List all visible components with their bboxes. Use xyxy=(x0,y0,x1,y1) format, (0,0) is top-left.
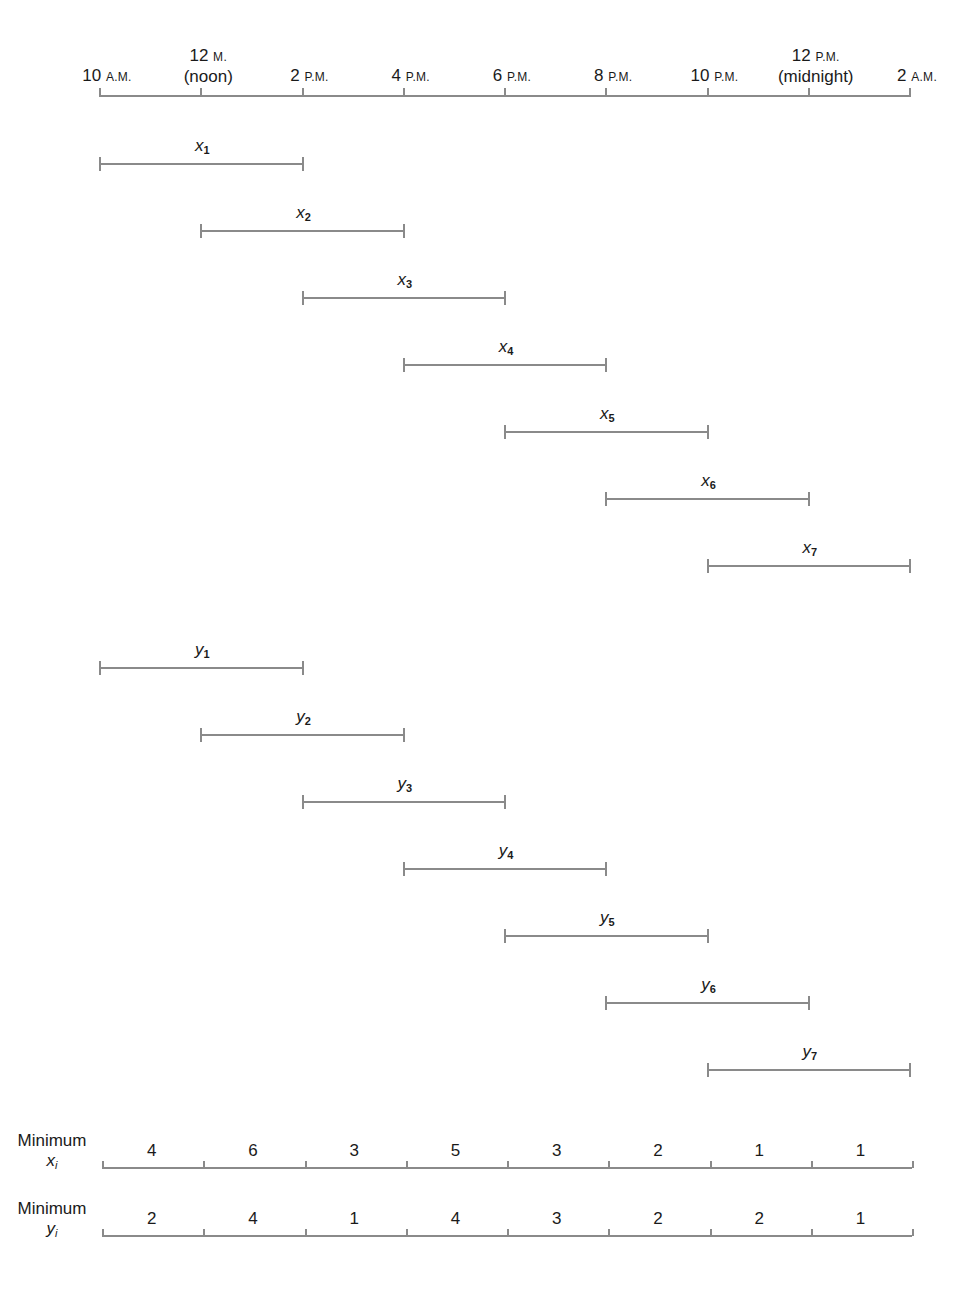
row-tick xyxy=(406,1161,408,1168)
interval-label: y7 xyxy=(802,1042,817,1062)
row-tick xyxy=(912,1229,914,1236)
axis-tick-label: 6 P.M. xyxy=(493,66,532,87)
interval-sub: 4 xyxy=(507,345,513,357)
interval-sub: 6 xyxy=(710,479,716,491)
interval-label: x1 xyxy=(195,136,210,156)
axis-tick xyxy=(504,88,506,96)
interval-endcap xyxy=(302,157,304,171)
minimum-value: 1 xyxy=(349,1209,358,1229)
interval-var: y xyxy=(499,841,508,860)
row-tick xyxy=(102,1161,104,1168)
interval-endcap xyxy=(302,661,304,675)
interval-endcap xyxy=(504,291,506,305)
row-label: Minimumyi xyxy=(4,1199,100,1243)
tick-unit: P.M. xyxy=(507,70,531,84)
interval-sub: 2 xyxy=(305,211,311,223)
interval-line xyxy=(99,163,304,165)
interval-endcap xyxy=(909,559,911,573)
interval-endcap xyxy=(605,862,607,876)
interval-var: y xyxy=(195,640,204,659)
axis-tick xyxy=(605,88,607,96)
interval-line xyxy=(707,1069,912,1071)
interval-var: x xyxy=(296,203,305,222)
interval-endcap xyxy=(403,224,405,238)
axis-tick xyxy=(909,88,911,96)
row-tick xyxy=(608,1161,610,1168)
interval-endcap xyxy=(403,358,405,372)
minimum-value: 4 xyxy=(451,1209,460,1229)
interval-sub: 3 xyxy=(406,782,412,794)
interval-endcap xyxy=(808,492,810,506)
minimum-value: 3 xyxy=(552,1209,561,1229)
axis-tick xyxy=(403,88,405,96)
interval-endcap xyxy=(707,425,709,439)
axis-tick xyxy=(707,88,709,96)
minimum-value: 2 xyxy=(147,1209,156,1229)
interval-endcap xyxy=(403,862,405,876)
row-tick xyxy=(710,1229,712,1236)
interval-sub: 1 xyxy=(203,648,209,660)
tick-unit: A.M. xyxy=(911,70,937,84)
tick-note: (midnight) xyxy=(778,67,854,86)
interval-line xyxy=(605,498,810,500)
interval-var: x xyxy=(499,337,508,356)
row-tick xyxy=(406,1229,408,1236)
row-tick xyxy=(305,1229,307,1236)
interval-line xyxy=(302,297,507,299)
interval-endcap xyxy=(707,929,709,943)
interval-endcap xyxy=(99,661,101,675)
interval-sub: 1 xyxy=(203,144,209,156)
tick-note: (noon) xyxy=(184,67,233,86)
interval-endcap xyxy=(605,358,607,372)
minimum-value: 1 xyxy=(856,1209,865,1229)
interval-line xyxy=(403,868,608,870)
axis-tick xyxy=(808,88,810,96)
row-label-var: xi xyxy=(47,1151,58,1170)
interval-endcap xyxy=(605,492,607,506)
axis-tick-label: 2 P.M. xyxy=(290,66,329,87)
interval-sub: 7 xyxy=(811,1050,817,1062)
interval-var: y xyxy=(600,908,609,927)
interval-line xyxy=(707,565,912,567)
minimum-value: 3 xyxy=(552,1141,561,1161)
axis-tick-label: 10 A.M. xyxy=(82,66,132,87)
minimum-value: 6 xyxy=(248,1141,257,1161)
tick-unit: P.M. xyxy=(304,70,328,84)
axis-tick-label: 2 A.M. xyxy=(897,66,937,87)
minimum-value: 4 xyxy=(248,1209,257,1229)
interval-line xyxy=(504,935,709,937)
tick-unit: P.M. xyxy=(406,70,430,84)
tick-unit: P.M. xyxy=(608,70,632,84)
interval-var: y xyxy=(397,774,406,793)
tick-hour: 12 xyxy=(189,46,208,65)
interval-endcap xyxy=(504,425,506,439)
interval-endcap xyxy=(302,291,304,305)
interval-endcap xyxy=(707,1063,709,1077)
minimum-value: 4 xyxy=(147,1141,156,1161)
interval-label: x6 xyxy=(701,471,716,491)
interval-label: y5 xyxy=(600,908,615,928)
interval-var: x xyxy=(397,270,406,289)
interval-sub: 5 xyxy=(608,412,614,424)
interval-sub: 3 xyxy=(406,278,412,290)
interval-label: y6 xyxy=(701,975,716,995)
interval-var: x xyxy=(701,471,710,490)
axis-tick xyxy=(200,88,202,96)
minimum-value: 1 xyxy=(856,1141,865,1161)
interval-endcap xyxy=(302,795,304,809)
axis-tick-label: 12 M.(noon) xyxy=(184,46,233,87)
tick-hour: 12 xyxy=(792,46,811,65)
interval-label: y2 xyxy=(296,707,311,727)
axis-tick xyxy=(99,88,101,96)
interval-label: x7 xyxy=(802,538,817,558)
row-label-text: Minimum xyxy=(18,1199,87,1218)
interval-line xyxy=(99,667,304,669)
row-tick xyxy=(102,1229,104,1236)
interval-var: y xyxy=(296,707,305,726)
interval-sub: 5 xyxy=(608,916,614,928)
interval-endcap xyxy=(707,559,709,573)
tick-unit: P.M. xyxy=(714,70,738,84)
row-label-var: yi xyxy=(47,1219,58,1238)
minimum-value: 1 xyxy=(754,1141,763,1161)
minimum-value: 2 xyxy=(754,1209,763,1229)
